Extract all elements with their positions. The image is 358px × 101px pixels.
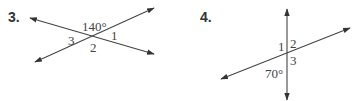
angle-2-label: 2 [290,36,297,51]
given-angle-label: 70° [265,66,283,81]
problem-4: 4. 1 2 3 70° [200,9,350,100]
given-angle-label: 140° [82,19,107,34]
problem-3: 3. 140° 1 2 3 [8,8,154,62]
transversal-line [221,28,350,79]
problem-number: 3. [8,9,20,25]
angle-3-label: 3 [290,53,297,68]
problem-number: 4. [200,9,212,25]
angle-3-label: 3 [68,33,75,48]
angle-1-label: 1 [111,28,118,43]
angle-2-label: 2 [90,40,97,55]
diagram-canvas: 3. 140° 1 2 3 4. 1 2 3 70° [0,0,358,101]
angle-1-label: 1 [278,39,285,54]
